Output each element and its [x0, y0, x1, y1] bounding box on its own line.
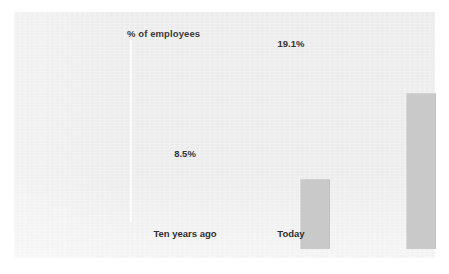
plot-area	[130, 26, 342, 222]
bar-today[interactable]	[406, 93, 436, 249]
bar-value-label-today: 19.1%	[254, 38, 328, 49]
bar-value-label-ten-years-ago: 8.5%	[148, 148, 222, 159]
category-label-ten-years-ago: Ten years ago	[130, 228, 240, 239]
category-label-today: Today	[236, 228, 346, 239]
bar-chart-figure: % of employees 8.5% 19.1% Ten years ago …	[0, 0, 449, 274]
